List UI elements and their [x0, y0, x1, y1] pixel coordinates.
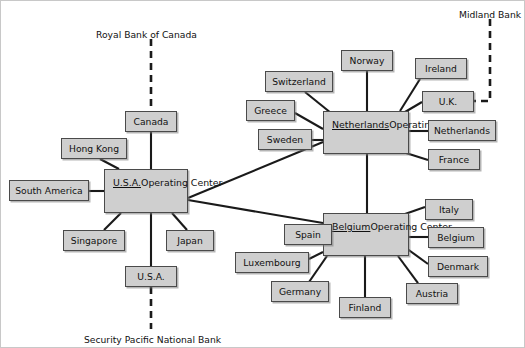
- operating-center-name: Netherlands: [332, 119, 389, 132]
- external-bank-label-midland-bank: Midland Bank: [459, 9, 521, 20]
- operating-center-belgium-operating-center[interactable]: BelgiumOperating Center: [323, 213, 409, 256]
- node-switzerland[interactable]: Switzerland: [265, 71, 333, 92]
- network-diagram: U.S.A.Operating CenterNetherlandsOperati…: [0, 0, 525, 348]
- node-hong-kong[interactable]: Hong Kong: [61, 138, 127, 159]
- node-label: France: [439, 154, 470, 166]
- node-canada[interactable]: Canada: [125, 111, 177, 132]
- node-label: Belgium: [437, 232, 475, 244]
- connector-line: [104, 213, 121, 230]
- node-label: Canada: [134, 116, 169, 128]
- node-sweden[interactable]: Sweden: [258, 129, 312, 150]
- operating-center-usa-operating-center[interactable]: U.S.A.Operating Center: [104, 169, 188, 213]
- operating-center-netherlands-operating-center[interactable]: NetherlandsOperating Center: [323, 111, 409, 154]
- node-label: U.S.A.: [137, 271, 164, 283]
- node-label: Luxembourg: [243, 257, 300, 269]
- connector-line: [406, 153, 428, 160]
- connector-line: [295, 113, 323, 129]
- node-label: Italy: [439, 204, 459, 216]
- node-germany[interactable]: Germany: [271, 281, 329, 302]
- node-ireland[interactable]: Ireland: [415, 58, 467, 79]
- node-austria[interactable]: Austria: [406, 283, 458, 304]
- node-label: Switzerland: [272, 76, 326, 88]
- node-label: Japan: [177, 235, 203, 247]
- node-denmark[interactable]: Denmark: [428, 256, 488, 277]
- node-label: Singapore: [71, 235, 117, 247]
- node-label: Ireland: [425, 63, 457, 75]
- node-netherlands[interactable]: Netherlands: [428, 120, 496, 141]
- node-south-america[interactable]: South America: [9, 180, 89, 201]
- node-japan[interactable]: Japan: [166, 230, 214, 251]
- external-bank-label-royal-bank-of-canada: Royal Bank of Canada: [96, 29, 197, 40]
- external-bank-label-security-pacific-national-bank: Security Pacific National Bank: [84, 334, 221, 345]
- node-norway[interactable]: Norway: [341, 50, 393, 71]
- node-belgium[interactable]: Belgium: [428, 227, 484, 248]
- connector-line: [309, 252, 323, 259]
- node-label: Norway: [350, 55, 385, 67]
- node-label: Germany: [279, 286, 321, 298]
- operating-center-name: Belgium: [332, 221, 370, 234]
- connector-line: [188, 200, 323, 223]
- node-luxembourg[interactable]: Luxembourg: [235, 252, 309, 273]
- connector-line: [305, 92, 331, 113]
- node-label: Denmark: [437, 261, 479, 273]
- node-label: Greece: [254, 105, 287, 117]
- node-greece[interactable]: Greece: [246, 100, 295, 121]
- node-label: Hong Kong: [69, 143, 119, 155]
- node-spain[interactable]: Spain: [284, 224, 332, 245]
- operating-center-subtitle: Operating Center: [141, 177, 222, 190]
- node-italy[interactable]: Italy: [425, 199, 473, 220]
- connector-line: [172, 213, 187, 230]
- node-label: U.K.: [439, 96, 458, 108]
- node-label: Sweden: [267, 134, 303, 146]
- connector-line: [406, 248, 428, 264]
- connector-line: [400, 79, 420, 111]
- node-label: Finland: [349, 302, 382, 314]
- dashed-connector-line: [474, 19, 490, 101]
- node-usa[interactable]: U.S.A.: [125, 266, 177, 287]
- node-label: South America: [15, 185, 83, 197]
- node-label: Austria: [416, 288, 448, 300]
- node-label: Spain: [295, 229, 321, 241]
- connector-line: [309, 256, 327, 282]
- node-france[interactable]: France: [428, 149, 480, 170]
- node-singapore[interactable]: Singapore: [63, 230, 125, 251]
- connector-line: [398, 256, 418, 283]
- connector-line: [100, 159, 119, 169]
- node-finland[interactable]: Finland: [339, 297, 391, 318]
- operating-center-name: U.S.A.: [113, 177, 141, 190]
- node-label: Netherlands: [434, 125, 490, 137]
- node-uk[interactable]: U.K.: [422, 91, 474, 112]
